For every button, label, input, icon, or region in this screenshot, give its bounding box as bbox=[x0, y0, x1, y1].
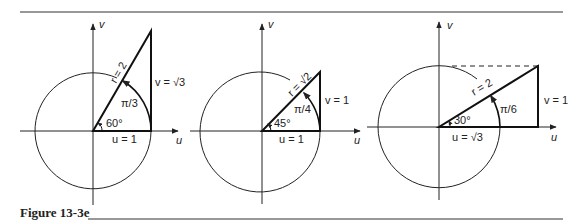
v-value-label: v = 1 bbox=[544, 94, 568, 106]
radius-label: r = 2 bbox=[107, 60, 129, 85]
u-value-label: u = 1 bbox=[112, 133, 137, 145]
v-value-label: v = √3 bbox=[155, 76, 185, 88]
angle-deg-label: 45° bbox=[274, 117, 291, 129]
v-axis-label: v bbox=[268, 18, 275, 30]
v-value-label: v = 1 bbox=[325, 94, 349, 106]
angle-rad-label: π/6 bbox=[500, 103, 517, 115]
triangle bbox=[93, 31, 151, 131]
u-axis-label: u bbox=[551, 131, 557, 143]
v-axis-label: v bbox=[99, 18, 106, 30]
figure-30-degrees: v u r = 2 π/6 30° u = √3 v = 1 bbox=[367, 19, 568, 200]
u-axis-label: u bbox=[176, 134, 182, 146]
arc-arrow bbox=[491, 96, 500, 127]
u-axis-label: u bbox=[354, 134, 360, 146]
figure-caption: Figure 13-3e bbox=[20, 205, 89, 221]
angle-deg-label: 60° bbox=[106, 117, 123, 129]
u-value-label: u = √3 bbox=[452, 131, 483, 143]
angle-rad-label: π/4 bbox=[294, 103, 311, 115]
angle-arc bbox=[98, 123, 102, 131]
figure-45-degrees: v u r = √2 π/4 45° u = 1 v = 1 bbox=[190, 18, 360, 204]
figure-60-degrees: v u r = 2 π/3 60° u = 1 v = √3 bbox=[20, 18, 185, 205]
angle-arc bbox=[268, 124, 271, 131]
angle-rad-label: π/3 bbox=[121, 97, 138, 109]
v-axis-label: v bbox=[447, 19, 454, 31]
angle-deg-label: 30° bbox=[454, 114, 471, 126]
u-value-label: u = 1 bbox=[279, 133, 304, 145]
figure-canvas: v u r = 2 π/3 60° u = 1 v = √3 v u r = √… bbox=[0, 0, 581, 224]
